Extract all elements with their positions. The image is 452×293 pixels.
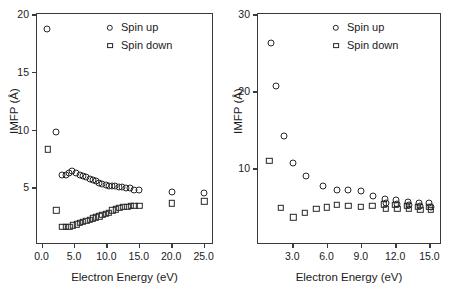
legend-item-label: Spin down <box>347 38 398 53</box>
data-point-square <box>266 158 272 164</box>
x-tick-label: 3.0 <box>285 251 300 262</box>
data-point-square <box>358 203 364 209</box>
x-tick-label: 15.0 <box>419 251 439 262</box>
data-point-circle <box>273 82 280 89</box>
x-tick-label: 6.0 <box>319 251 334 262</box>
x-tick-label: 20.0 <box>161 251 181 262</box>
x-tick-label: 12.0 <box>385 251 405 262</box>
x-tick <box>429 243 431 248</box>
legend-item-label: Spin up <box>121 20 158 35</box>
x-tick-label: 9.0 <box>354 251 369 262</box>
data-point-circle <box>357 188 364 195</box>
data-point-square <box>201 198 207 204</box>
spin-up-marker-icon <box>330 22 342 34</box>
legend-item-label: Spin down <box>121 38 172 53</box>
data-point-square <box>290 214 296 220</box>
data-point-square <box>427 206 433 212</box>
data-point-square <box>417 206 423 212</box>
y-tick <box>253 168 258 170</box>
legend-item: Spin down <box>330 38 398 53</box>
y-tick-label: 20 <box>17 9 29 20</box>
x-tick <box>361 243 363 248</box>
data-point-circle <box>201 190 208 197</box>
data-point-circle <box>267 40 274 47</box>
spin-up-marker-icon <box>104 22 116 34</box>
x-tick-label: 25.0 <box>193 251 213 262</box>
data-point-circle <box>345 186 352 193</box>
x-tick <box>106 243 108 248</box>
data-point-square <box>383 206 389 212</box>
x-tick <box>171 243 173 248</box>
data-point-square <box>406 206 412 212</box>
y-tick-label: 15 <box>17 66 29 77</box>
data-point-circle <box>333 186 340 193</box>
legend-item: Spin up <box>330 20 398 35</box>
x-tick <box>204 243 206 248</box>
y-tick <box>253 91 258 93</box>
x-tick <box>42 243 44 248</box>
y-tick <box>32 72 37 74</box>
x-tick-label: 0.0 <box>34 251 49 262</box>
data-point-square <box>45 146 51 152</box>
legend-right: Spin upSpin down <box>330 20 398 56</box>
x-tick-label: 10.0 <box>96 251 116 262</box>
data-point-square <box>345 203 351 209</box>
data-point-circle <box>168 188 175 195</box>
data-point-circle <box>290 160 297 167</box>
x-tick <box>74 243 76 248</box>
y-tick <box>32 187 37 189</box>
x-tick <box>327 243 329 248</box>
data-point-square <box>334 202 340 208</box>
x-tick-label: 15.0 <box>129 251 149 262</box>
data-point-square <box>313 206 319 212</box>
legend-item-label: Spin up <box>347 20 384 35</box>
data-point-circle <box>281 133 288 140</box>
legend-item: Spin up <box>104 20 172 35</box>
y-tick <box>253 14 258 16</box>
x-tick <box>395 243 397 248</box>
figure-imfp-vs-electron-energy: 51015200.05.010.015.020.025.0 Electron E… <box>0 0 452 293</box>
data-point-square <box>278 205 284 211</box>
y-tick-label: 30 <box>238 9 250 20</box>
data-point-circle <box>320 183 327 190</box>
data-point-circle <box>303 172 310 179</box>
legend-item: Spin down <box>104 38 172 53</box>
y-tick-label: 5 <box>23 182 29 193</box>
spin-down-marker-icon <box>330 40 342 52</box>
chart-panel-right: 1020303.06.09.012.015.0 Electron Energy … <box>226 0 452 293</box>
data-point-square <box>302 209 308 215</box>
data-point-square <box>369 203 375 209</box>
data-point-square <box>136 203 142 209</box>
data-point-square <box>169 200 175 206</box>
data-point-square <box>394 206 400 212</box>
data-point-circle <box>136 186 143 193</box>
x-tick <box>139 243 141 248</box>
legend-left: Spin upSpin down <box>104 20 172 56</box>
data-point-square <box>323 204 329 210</box>
x-axis-title-left: Electron Energy (eV) <box>36 271 213 283</box>
x-tick-label: 5.0 <box>67 251 82 262</box>
data-point-circle <box>370 192 377 199</box>
x-axis-title-right: Electron Energy (eV) <box>257 271 441 283</box>
chart-panel-left: 51015200.05.010.015.020.025.0 Electron E… <box>0 0 226 293</box>
data-point-circle <box>52 128 59 135</box>
spin-down-marker-icon <box>104 40 116 52</box>
data-point-square <box>53 207 59 213</box>
x-tick <box>292 243 294 248</box>
y-tick-label: 10 <box>238 163 250 174</box>
y-tick <box>32 130 37 132</box>
data-point-circle <box>44 26 51 33</box>
y-tick <box>32 14 37 16</box>
